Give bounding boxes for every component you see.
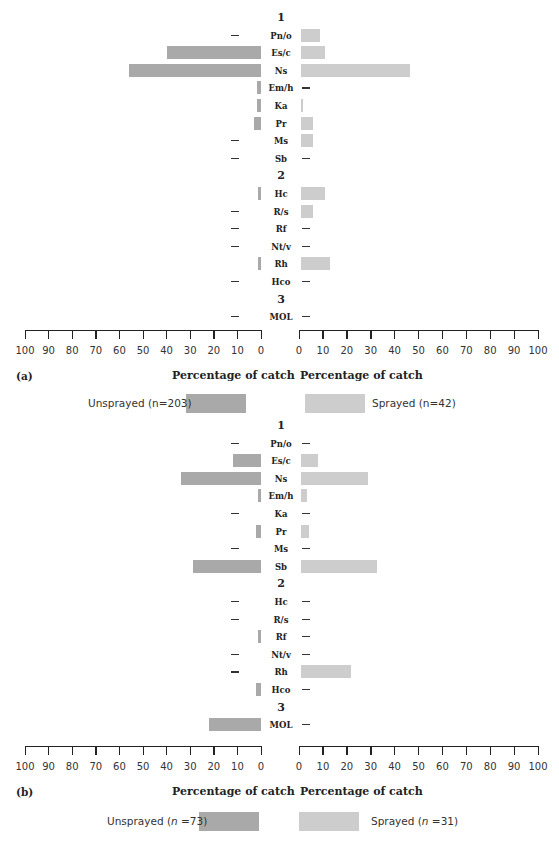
category-label: Ms <box>262 541 300 557</box>
right-axis-tick <box>322 330 323 339</box>
category-label: Rh <box>262 256 300 272</box>
left-tick-label: 100 <box>10 345 40 356</box>
right-tick-label: 100 <box>523 761 553 772</box>
category-row: Rh <box>0 664 559 680</box>
group-header-row: 1 <box>0 10 559 26</box>
category-label: Em/h <box>262 488 300 504</box>
zero-dash-right <box>302 228 310 229</box>
right-axis-tick <box>370 330 371 339</box>
group-header-row: 3 <box>0 700 559 716</box>
category-row: Ms <box>0 541 559 557</box>
category-label: Nt/v <box>262 647 300 663</box>
zero-dash-right <box>302 601 310 602</box>
zero-dash-right <box>302 724 310 725</box>
category-row: MOL <box>0 309 559 325</box>
category-row: Ms <box>0 133 559 149</box>
unsprayed-bar <box>258 630 261 643</box>
zero-dash-right <box>302 158 310 159</box>
category-row: Hco <box>0 682 559 698</box>
left-axis-tick <box>25 746 26 755</box>
category-row: Hco <box>0 274 559 290</box>
panel-a: 1Pn/oEs/cNsEm/hKaPrMsSb2HcR/sRfNt/vRhHco… <box>0 0 559 420</box>
category-label: Es/c <box>262 45 300 61</box>
zero-dash-left <box>231 671 239 672</box>
category-row: Sb <box>0 559 559 575</box>
right-axis-tick <box>442 330 443 339</box>
category-label: R/s <box>262 204 300 220</box>
unsprayed-bar <box>167 46 261 59</box>
unsprayed-bar <box>257 81 261 94</box>
right-axis-tick <box>418 746 419 755</box>
zero-dash-left <box>231 513 239 514</box>
category-label: Hc <box>262 186 300 202</box>
category-row: Rf <box>0 221 559 237</box>
right-axis-tick <box>490 330 491 339</box>
left-axis-tick <box>190 330 191 339</box>
zero-dash-left <box>231 35 239 36</box>
unsprayed-swatch <box>199 812 259 831</box>
category-row: Nt/v <box>0 239 559 255</box>
category-label: Hco <box>262 682 300 698</box>
zero-dash-right <box>302 443 310 444</box>
category-label: MOL <box>262 309 300 325</box>
category-row: Ns <box>0 471 559 487</box>
left-axis-tick <box>166 330 167 339</box>
category-label: Ms <box>262 133 300 149</box>
category-label: Ns <box>262 63 300 79</box>
right-axis-tick <box>442 746 443 755</box>
category-row: R/s <box>0 204 559 220</box>
group-label: 1 <box>262 10 300 26</box>
right-axis-tick <box>466 746 467 755</box>
zero-dash-left <box>231 228 239 229</box>
category-label: Ka <box>262 98 300 114</box>
zero-dash-left <box>231 281 239 282</box>
category-row: Nt/v <box>0 647 559 663</box>
group-header-row: 1 <box>0 418 559 434</box>
category-label: Ns <box>262 471 300 487</box>
category-label: MOL <box>262 717 300 733</box>
sprayed-bar <box>301 99 303 112</box>
zero-dash-left <box>231 654 239 655</box>
right-axis-tick <box>466 330 467 339</box>
category-row: Es/c <box>0 453 559 469</box>
legend-n-italic: n <box>422 815 429 827</box>
left-axis-tick <box>143 330 144 339</box>
category-row: Em/h <box>0 80 559 96</box>
zero-dash-left <box>231 619 239 620</box>
category-label: Rh <box>262 664 300 680</box>
sprayed-legend-label: Sprayed (n=42) <box>372 397 456 409</box>
left-axis-tick <box>213 746 214 755</box>
legend-text: Sprayed ( <box>371 815 422 827</box>
right-axis-tick <box>299 746 300 755</box>
right-axis-tick <box>538 330 539 339</box>
category-label: Rf <box>262 221 300 237</box>
sprayed-bar <box>301 205 313 218</box>
unsprayed-bar <box>256 525 261 538</box>
sprayed-bar <box>301 472 368 485</box>
sprayed-bar <box>301 665 351 678</box>
category-row: Pr <box>0 524 559 540</box>
zero-dash-right <box>302 87 310 88</box>
left-axis-tick <box>261 330 262 339</box>
category-row: Es/c <box>0 45 559 61</box>
group-label: 3 <box>262 700 300 716</box>
group-label: 3 <box>262 292 300 308</box>
left-axis-tick <box>72 746 73 755</box>
left-axis-tick <box>237 746 238 755</box>
left-axis-title: Percentage of catch <box>172 369 295 382</box>
unsprayed-bar <box>258 489 261 502</box>
left-axis-tick <box>95 330 96 339</box>
right-axis-title: Percentage of catch <box>300 369 423 382</box>
zero-dash-right <box>302 619 310 620</box>
sprayed-bar <box>301 29 320 42</box>
unsprayed-swatch <box>186 394 246 413</box>
zero-dash-left <box>231 316 239 317</box>
zero-dash-left <box>231 158 239 159</box>
sprayed-bar <box>301 489 307 502</box>
zero-dash-left <box>231 548 239 549</box>
right-axis-tick <box>322 746 323 755</box>
unsprayed-bar <box>257 99 261 112</box>
sprayed-bar <box>301 46 325 59</box>
sprayed-bar <box>301 64 410 77</box>
category-row: Em/h <box>0 488 559 504</box>
